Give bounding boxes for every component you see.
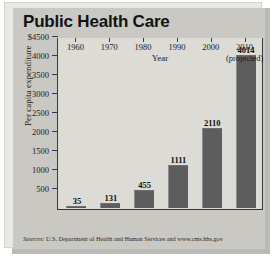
y-axis-tick: $4500 (52, 36, 58, 37)
x-axis-sublabel: (projected) (226, 53, 263, 63)
bar[interactable]: 2110 (202, 128, 222, 208)
y-axis-tick-label: 2500 (32, 108, 49, 118)
plot-wrapper: $45004000350030002500200015001000500 351… (57, 38, 263, 210)
x-axis-tick-label: 1980 (135, 42, 152, 52)
y-axis-tick: 4000 (52, 55, 58, 56)
chart-panel: Public Health Care Per capita expenditur… (13, 8, 265, 249)
y-axis-tick: 1000 (52, 169, 58, 170)
y-axis-tick-label: 1000 (32, 165, 49, 175)
x-axis-tick-label: 2000 (202, 42, 219, 52)
source-text: U.S. Department of Health and Human Serv… (44, 235, 222, 242)
chart-figure: Public Health Care Per capita expenditur… (0, 0, 272, 256)
bar-value-label: 2110 (204, 118, 221, 128)
bar[interactable]: 455 (134, 190, 154, 207)
y-axis-tick-label: $4500 (28, 32, 49, 42)
x-axis-tick-label: 1990 (168, 42, 185, 52)
figure-border: Public Health Care Per capita expenditur… (4, 2, 262, 248)
x-axis-tick-label: 2010 (236, 42, 253, 52)
y-axis-tick-label: 3000 (32, 89, 49, 99)
y-axis-tick: 2500 (52, 112, 58, 113)
bar-value-label: 455 (138, 180, 151, 190)
y-axis-tick: 3000 (52, 93, 58, 94)
y-axis-tick-label: 500 (36, 184, 49, 194)
x-axis-tick-label: 1960 (67, 42, 84, 52)
source-prefix: Sources: (23, 235, 44, 242)
bar-value-label: 131 (104, 193, 117, 203)
bar[interactable]: 4014 (236, 55, 256, 207)
chart-title: Public Health Care (23, 12, 170, 32)
y-axis-tick-label: 4000 (32, 51, 49, 61)
y-axis-tick: 3500 (52, 74, 58, 75)
y-axis-tick-label: 1500 (32, 146, 49, 156)
bar[interactable]: 1111 (168, 165, 188, 207)
x-axis-tick-label: 1970 (101, 42, 118, 52)
source-note: Sources: U.S. Department of Health and H… (23, 235, 223, 242)
y-axis-tick-label: 2000 (32, 127, 49, 137)
bar-series: 35131455111121104014 (60, 38, 261, 208)
y-axis-tick: 2000 (52, 131, 58, 132)
x-axis-label: Year (152, 53, 169, 63)
bar-value-label: 35 (73, 196, 82, 206)
bar-value-label: 1111 (171, 155, 187, 165)
y-axis-tick: 1500 (52, 150, 58, 151)
plot-area: $45004000350030002500200015001000500 351… (57, 38, 263, 210)
bar[interactable]: 35 (66, 206, 86, 208)
y-axis-tick-label: 3500 (32, 70, 49, 80)
y-axis-tick: 500 (52, 188, 58, 189)
bar[interactable]: 131 (100, 203, 120, 208)
